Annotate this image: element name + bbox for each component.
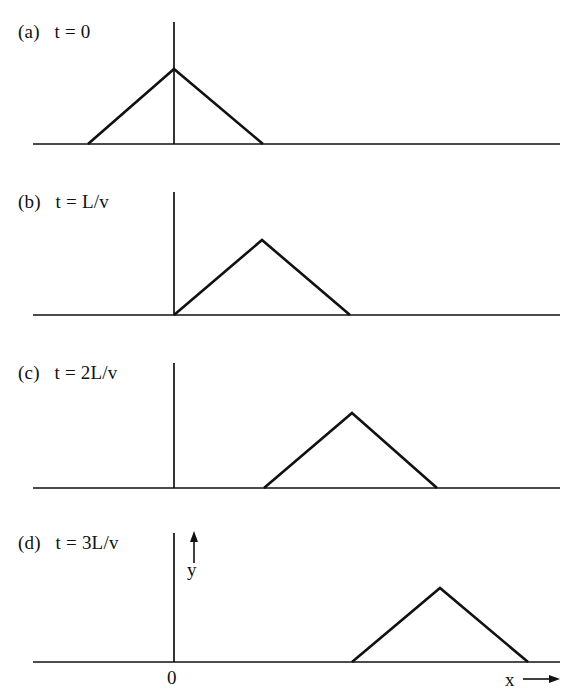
wave-plot-svg	[0, 0, 580, 700]
panel-label-c: (c) t = 2L/v	[18, 363, 118, 382]
x-axis-label: x	[505, 670, 515, 689]
panel-c-pulse	[264, 413, 437, 488]
panel-a-pulse	[88, 69, 263, 144]
panel-d-graph	[33, 531, 560, 683]
y-axis-label: y	[187, 560, 197, 579]
panel-b-pulse	[174, 240, 350, 315]
panel-d-pulse	[352, 588, 528, 662]
panel-b-graph	[33, 192, 560, 315]
x-direction-arrow-icon	[523, 675, 560, 683]
wave-pulse-figure: (a) t = 0 (b) t = L/v (c) t = 2L/v (d) t…	[0, 0, 580, 700]
origin-label: 0	[167, 668, 177, 687]
panel-label-a: (a) t = 0	[18, 22, 91, 41]
panel-label-d: (d) t = 3L/v	[18, 533, 119, 552]
panel-a-graph	[33, 22, 560, 144]
panel-label-b: (b) t = L/v	[18, 192, 109, 211]
